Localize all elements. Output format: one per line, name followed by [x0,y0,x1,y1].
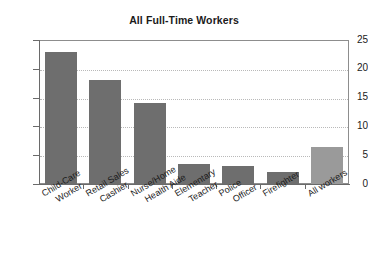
y-tick-mark [33,184,39,185]
y-tick-label: 5 [336,149,368,160]
y-tick-mark [33,69,39,70]
x-tick-mark [305,184,306,189]
y-axis-line [39,40,40,185]
bar [45,52,77,184]
y-tick-mark [33,98,39,99]
bar-chart: All Full-Time Workers 0510152025 Child-C… [0,0,368,260]
y-tick-label: 15 [336,91,368,102]
y-tick-mark [33,40,39,41]
y-tick-mark [33,155,39,156]
chart-title: All Full-Time Workers [0,14,368,26]
bars-group [39,40,349,184]
y-tick-label: 25 [336,34,368,45]
bar [89,80,121,184]
y-tick-label: 20 [336,62,368,73]
y-tick-mark [33,126,39,127]
y-tick-label: 10 [336,120,368,131]
